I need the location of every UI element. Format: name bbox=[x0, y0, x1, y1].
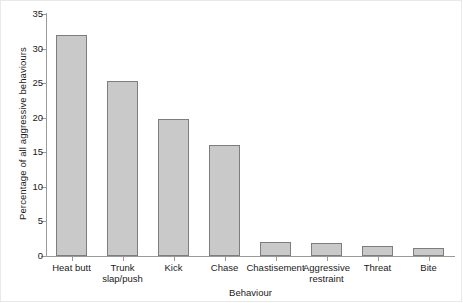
x-tick-mark bbox=[123, 257, 124, 261]
bar bbox=[362, 246, 393, 256]
bar bbox=[413, 248, 444, 256]
y-tick-label: 5 bbox=[38, 215, 43, 226]
x-tick-mark bbox=[276, 257, 277, 261]
bar bbox=[311, 243, 342, 256]
bar bbox=[158, 119, 189, 256]
x-axis-title: Behaviour bbox=[46, 287, 455, 298]
y-tick-label: 25 bbox=[32, 77, 43, 88]
bar bbox=[107, 81, 138, 256]
x-tick-label: Bite bbox=[397, 262, 460, 273]
x-tick-mark bbox=[378, 257, 379, 261]
y-tick-label: 15 bbox=[32, 146, 43, 157]
x-tick-mark bbox=[72, 257, 73, 261]
x-tick-mark bbox=[174, 257, 175, 261]
y-axis-title: Percentage of all aggressive behaviours bbox=[17, 24, 28, 244]
x-tick-mark bbox=[225, 257, 226, 261]
bar-chart-figure: Percentage of all aggressive behaviours … bbox=[0, 0, 463, 303]
x-tick-mark bbox=[429, 257, 430, 261]
y-tick-label: 35 bbox=[32, 8, 43, 19]
y-tick-label: 20 bbox=[32, 112, 43, 123]
bar bbox=[260, 242, 291, 256]
bar bbox=[209, 145, 240, 256]
y-tick-label: 30 bbox=[32, 43, 43, 54]
x-axis-line bbox=[46, 256, 455, 257]
plot-area bbox=[46, 14, 454, 256]
bar bbox=[56, 35, 87, 256]
y-tick-label: 0 bbox=[38, 250, 43, 261]
y-tick-label: 10 bbox=[32, 181, 43, 192]
x-tick-mark bbox=[327, 257, 328, 261]
